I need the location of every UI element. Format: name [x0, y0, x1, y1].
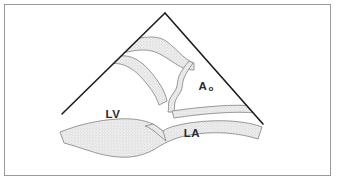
- aortic-root-posterior-wall-shape: [172, 105, 257, 118]
- tissue-structures: [60, 37, 262, 157]
- sector-left-edge: [62, 13, 165, 114]
- label-aorta-subscript: o: [209, 84, 214, 93]
- mitral-valve-strand-shape: [168, 61, 193, 112]
- figure-root: LV A o LA: [0, 0, 337, 187]
- interventricular-septum-shape: [100, 37, 194, 70]
- label-left-atrium: LA: [184, 127, 201, 139]
- echocardiogram-diagram: LV A o LA: [0, 0, 337, 187]
- label-left-ventricle: LV: [105, 108, 120, 120]
- anterior-mitral-leaflet-shape: [100, 56, 167, 105]
- label-aorta: A: [199, 80, 208, 92]
- posterior-wall-band-shape: [60, 119, 262, 157]
